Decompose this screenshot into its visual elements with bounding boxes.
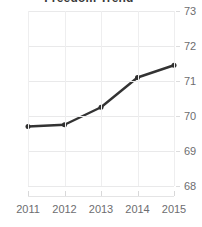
gridline-vertical (28, 11, 29, 186)
chart-container: Freedom Trend 686970717273 2011201220132… (0, 0, 202, 227)
y-axis-tick-label: 73 (178, 5, 202, 17)
x-axis-tick-mark (101, 191, 102, 196)
x-axis-line (28, 196, 174, 197)
y-axis-labels: 686970717273 (178, 0, 202, 203)
x-axis-tick-label: 2013 (89, 203, 113, 215)
x-axis-tick-mark (28, 191, 29, 196)
gridline-vertical (65, 11, 66, 186)
x-axis-tick-label: 2012 (52, 203, 76, 215)
y-axis-tick-label: 70 (178, 110, 202, 122)
gridline-vertical (138, 11, 139, 186)
y-axis-tick-label: 71 (178, 75, 202, 87)
x-axis-tick-label: 2014 (125, 203, 149, 215)
gridline-vertical (174, 11, 175, 186)
series-freedom-trend (0, 0, 178, 203)
x-axis-tick-label: 2011 (16, 203, 40, 215)
y-axis-tick-label: 68 (178, 180, 202, 192)
y-axis-tick-label: 72 (178, 40, 202, 52)
gridline-vertical (101, 11, 102, 186)
x-axis-tick-mark (174, 191, 175, 196)
x-axis-tick-mark (138, 191, 139, 196)
x-axis-tick-label: 2015 (162, 203, 186, 215)
y-axis-tick-label: 69 (178, 145, 202, 157)
gridline-horizontal (28, 186, 174, 187)
x-axis-tick-mark (65, 191, 66, 196)
plot-area (0, 0, 178, 203)
